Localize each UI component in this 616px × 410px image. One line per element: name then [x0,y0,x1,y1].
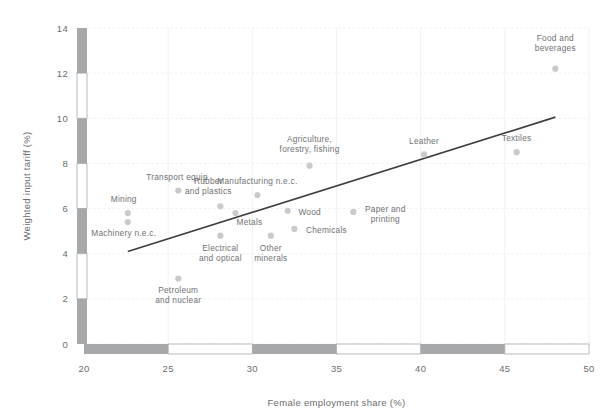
data-point-label: Chemicals [306,225,347,235]
data-point-dot[interactable] [175,187,181,193]
y-axis-band-white [77,73,87,118]
data-point-label: Electricaland optical [199,243,242,263]
y-axis-band-gray [77,28,87,73]
x-axis-title: Female employment share (%) [268,397,406,408]
data-point-group[interactable]: Mining [111,194,137,216]
data-point-group[interactable]: Otherminerals [254,233,287,263]
data-point-label: Agriculture,forestry, fishing [280,134,340,154]
data-point-group[interactable]: Metals [232,210,262,227]
data-point-dot[interactable] [254,192,260,198]
data-point-label: Metals [237,217,263,227]
data-point-group[interactable]: Chemicals [291,225,347,235]
data-point-dot[interactable] [232,210,238,216]
x-axis-tick-label: 30 [247,363,258,374]
data-point-label: Otherminerals [254,243,287,263]
data-point-dot[interactable] [285,208,291,214]
x-axis-tick-label: 20 [78,363,89,374]
data-point-label: Mining [111,194,137,204]
y-axis-title: Weighted input tariff (%) [21,131,32,240]
y-axis-tick-label: 2 [62,293,68,304]
data-point-group[interactable]: Machinery n.e.c. [91,219,156,238]
data-point-dot[interactable] [217,233,223,239]
y-axis-tick-label: 6 [62,203,68,214]
data-point-label: Manufacturing n.e.c. [217,176,297,186]
data-point-dot[interactable] [421,151,427,157]
x-axis-tick-label: 45 [499,363,510,374]
data-point-label: Leather [409,136,439,146]
y-axis-band-white [77,254,87,299]
x-axis-band-white [505,344,589,354]
y-axis-band-gray [77,299,87,344]
chart-canvas: 0246810121420253035404550Female employme… [0,0,616,410]
data-point-group[interactable]: Food andbeverages [535,33,576,72]
y-axis-tick-label: 4 [62,248,68,259]
data-point-group[interactable]: Paper andprinting [350,204,406,224]
data-point-dot[interactable] [125,210,131,216]
data-point-group[interactable]: Electricaland optical [199,233,242,263]
x-axis-band-gray [252,344,336,354]
x-axis-tick-label: 50 [583,363,594,374]
y-axis-band-gray [77,209,87,254]
x-axis-band-white [337,344,421,354]
x-axis-tick-label: 40 [415,363,426,374]
data-point-group[interactable]: Wood [285,207,321,217]
data-point-label: Petroleumand nuclear [155,285,201,305]
data-point-dot[interactable] [514,149,520,155]
y-axis-tick-label: 12 [57,68,68,79]
data-point-label: Wood [298,207,321,217]
data-point-label: Paper andprinting [365,204,406,224]
x-axis-tick-label: 25 [163,363,174,374]
y-axis-tick-label: 14 [57,23,68,34]
y-axis-tick-label: 0 [62,339,68,350]
data-point-label: Food andbeverages [535,33,576,53]
y-axis-band-white [77,163,87,208]
data-point-dot[interactable] [552,66,558,72]
data-point-dot[interactable] [217,203,223,209]
x-axis-band-gray [84,344,168,354]
data-point-dot[interactable] [306,163,312,169]
y-axis-tick-label: 10 [57,113,68,124]
y-axis-tick-label: 8 [62,158,68,169]
data-point-label: Machinery n.e.c. [91,228,156,238]
x-axis-band-white [168,344,252,354]
data-point-label: Textiles [502,133,532,143]
x-axis-band-gray [421,344,505,354]
scatter-chart: 0246810121420253035404550Female employme… [0,0,616,410]
data-point-dot[interactable] [268,233,274,239]
y-axis-band-gray [77,118,87,163]
data-point-dot[interactable] [175,275,181,281]
data-point-dot[interactable] [291,226,297,232]
data-point-group[interactable]: Textiles [502,133,532,155]
data-point-dot[interactable] [125,219,131,225]
x-axis-tick-label: 35 [331,363,342,374]
data-point-dot[interactable] [350,209,356,215]
data-point-group[interactable]: Petroleumand nuclear [155,275,201,304]
